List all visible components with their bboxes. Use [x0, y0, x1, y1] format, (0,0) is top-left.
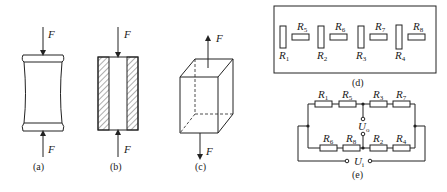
caption-d: (d) [352, 77, 364, 89]
resistor-e-r5 [339, 101, 356, 107]
junction-right [413, 124, 416, 127]
label-e-r2: R2 [372, 132, 384, 146]
caption-a: (a) [33, 161, 44, 173]
top-cap [22, 55, 64, 62]
figure-b: F F (b) [98, 27, 138, 173]
input-terminal-left [345, 159, 349, 163]
resistor-r3 [358, 26, 364, 48]
resistor-e-r4 [393, 145, 410, 151]
force-label-bottom-a: F [47, 143, 55, 155]
label-r5: R5 [296, 20, 308, 34]
junction-top [361, 102, 364, 105]
label-e-r5: R5 [341, 88, 353, 102]
output-terminal-bottom [361, 132, 365, 136]
resistor-e-r8 [343, 145, 360, 151]
label-r1: R1 [278, 49, 290, 63]
junction-bottom [361, 146, 364, 149]
caption-b: (b) [110, 161, 122, 173]
label-e-r6: R6 [322, 132, 334, 146]
barrel-body [24, 62, 62, 123]
figure-canvas: F F (a) F F (b) F F (c) R1 R5 R [0, 0, 447, 192]
caption-c: (c) [195, 161, 206, 173]
force-label-bottom-c: F [205, 145, 213, 157]
force-label-bottom-b: F [123, 143, 131, 155]
hatched-wall-left [98, 57, 109, 130]
hatched-wall-right [127, 57, 138, 130]
label-r4: R4 [394, 49, 406, 63]
label-r7: R7 [374, 20, 386, 34]
resistor-r8 [408, 34, 425, 40]
label-uo: Uo [358, 120, 370, 134]
resistor-r7 [370, 34, 387, 40]
resistor-r1 [280, 26, 286, 48]
label-ui: Ui [354, 155, 364, 169]
resistor-r5 [292, 34, 309, 40]
resistor-e-r3 [370, 101, 387, 107]
resistor-r6 [330, 34, 347, 40]
label-e-r3: R3 [372, 88, 384, 102]
resistor-r2 [318, 26, 324, 48]
bottom-cap [22, 123, 64, 131]
resistor-e-r1 [315, 101, 332, 107]
force-label-top-b: F [123, 28, 131, 40]
label-r8: R8 [412, 20, 424, 34]
label-r2: R2 [316, 49, 328, 63]
resistor-e-r6 [320, 145, 337, 151]
caption-e: (e) [352, 169, 363, 181]
figure-d: R1 R5 R2 R6 R3 R7 R4 R8 (d) [274, 6, 436, 89]
resistor-r4 [396, 25, 402, 49]
cube-hidden-edges [180, 59, 233, 133]
resistor-e-r2 [370, 145, 387, 151]
label-e-r1: R1 [317, 88, 329, 102]
resistor-e-r7 [393, 101, 410, 107]
label-e-r8: R8 [345, 132, 357, 146]
force-label-top-c: F [215, 32, 223, 44]
figure-a: F F (a) [22, 27, 64, 173]
label-r3: R3 [355, 49, 367, 63]
input-terminal-right [368, 159, 372, 163]
force-label-top-a: F [47, 28, 55, 40]
cube-edges [180, 59, 233, 133]
label-r6: R6 [334, 20, 346, 34]
figure-c: F F (c) [180, 32, 233, 173]
label-e-r7: R7 [395, 88, 407, 102]
label-e-r4: R4 [395, 132, 407, 146]
junction-left [306, 124, 309, 127]
